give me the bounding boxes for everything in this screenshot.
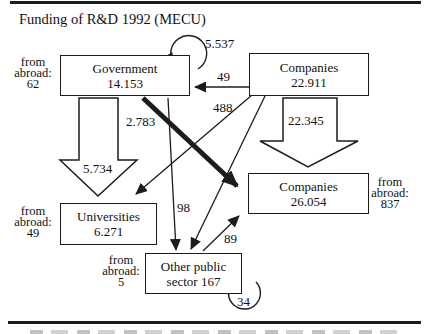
rd-funding-diagram: Funding of R&D 1992 (MECU) <box>0 0 428 334</box>
from-abroad-companies-value: 837 <box>366 199 414 210</box>
flow-value-companies-to-government: 49 <box>217 69 230 85</box>
flow-value-other-public-to-companies: 89 <box>224 231 237 247</box>
companies-funding-value: 22.911 <box>291 75 326 90</box>
flow-value-government-to-companies: 2.783 <box>126 114 155 130</box>
block-arrow-companies-to-companies <box>260 98 358 167</box>
universities-box: Universities 6.271 <box>60 203 157 245</box>
from-abroad-government-value: 62 <box>10 79 56 90</box>
companies-funding-box: Companies 22.911 <box>249 53 369 96</box>
flow-value-government-self: 5.537 <box>205 36 234 52</box>
from-abroad-government: from abroad: 62 <box>10 57 56 90</box>
flow-value-other-public-self: 34 <box>237 294 250 310</box>
universities-value: 6.271 <box>94 224 123 239</box>
flow-value-government-to-other-public: 98 <box>177 200 190 216</box>
government-label: Government <box>93 61 158 76</box>
other-public-label-line1: Other public <box>161 259 226 274</box>
from-abroad-universities: from abroad: 49 <box>10 206 56 239</box>
from-abroad-other-public: from abroad: 5 <box>98 255 144 288</box>
flow-value-government-to-universities: 5.734 <box>83 161 112 177</box>
bottom-rule <box>8 321 421 324</box>
companies-performing-box: Companies 26.054 <box>248 173 369 214</box>
from-abroad-universities-value: 49 <box>10 228 56 239</box>
companies-funding-label: Companies <box>280 60 339 75</box>
companies-performing-value: 26.054 <box>291 194 327 209</box>
flow-value-companies-to-universities: 488 <box>213 100 233 116</box>
other-public-label-line2: sector 167 <box>167 274 221 289</box>
flow-value-companies-to-companies: 22.345 <box>288 113 324 129</box>
block-arrow-government-to-universities <box>60 98 137 196</box>
from-abroad-companies: from abroad: 837 <box>366 177 414 210</box>
cut-off-caption-fragment <box>30 330 400 334</box>
government-box: Government 14.153 <box>60 55 190 96</box>
other-public-box: Other public sector 167 <box>145 253 242 294</box>
from-abroad-other-public-value: 5 <box>98 277 144 288</box>
companies-performing-label: Companies <box>279 179 338 194</box>
government-value: 14.153 <box>107 76 143 91</box>
universities-label: Universities <box>77 209 140 224</box>
